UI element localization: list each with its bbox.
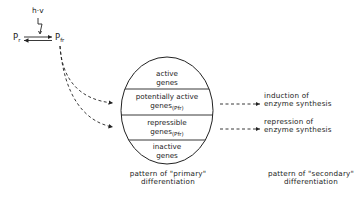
- outcome-repression: repression of enzyme synthesis: [264, 118, 332, 134]
- repression-line2: enzyme synthesis: [264, 126, 332, 134]
- dashed-arrow-to-potentially-active: [60, 46, 113, 103]
- pr-sub: r: [18, 37, 20, 43]
- zone-repressible: repressible genes(Pfr): [121, 119, 213, 138]
- induction-line2: enzyme synthesis: [264, 100, 332, 108]
- lightning-bolt-icon: [38, 18, 42, 34]
- zone-line2-text: genes: [150, 127, 172, 136]
- zone-inactive-line2: genes: [121, 152, 213, 161]
- pfr-tag: (Pfr): [172, 131, 184, 137]
- pfr-symbol: Pfr: [55, 32, 64, 43]
- zone-active-line2: genes: [121, 79, 213, 88]
- zone-potentially-active-line2: genes(Pfr): [121, 102, 213, 113]
- light-label: h·v: [32, 6, 44, 15]
- caption-secondary: pattern of "secondary" differentiation: [262, 170, 360, 186]
- caption-primary: pattern of "primary" differentiation: [118, 170, 218, 186]
- dashed-arrow-to-repressible: [60, 46, 113, 127]
- zone-repressible-line2: genes(Pfr): [121, 128, 213, 139]
- caption-primary-line2: differentiation: [118, 178, 218, 186]
- pfr-tag: (Pfr): [172, 105, 184, 111]
- outcome-induction: induction of enzyme synthesis: [264, 92, 332, 108]
- zone-line2-text: genes: [150, 101, 172, 110]
- pr-symbol: Pr: [13, 32, 20, 43]
- zone-potentially-active: potentially active genes(Pfr): [121, 93, 213, 112]
- zone-active: active genes: [121, 70, 213, 87]
- pfr-sub: fr: [60, 37, 64, 43]
- reversible-arrow-icon: [24, 37, 52, 41]
- zone-inactive: inactive genes: [121, 143, 213, 160]
- caption-secondary-line2: differentiation: [262, 178, 360, 186]
